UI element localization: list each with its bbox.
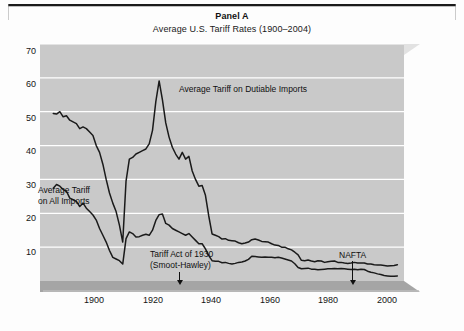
y-tick-30: 30: [4, 181, 36, 190]
x-tick-1900: 1900: [74, 296, 114, 305]
series-lines: [40, 44, 404, 281]
annotation-dutiable-imports: Average Tariff on Dutiable Imports: [179, 84, 307, 95]
y-tick-10: 10: [4, 248, 36, 257]
plot-background: [40, 44, 404, 281]
annotation-tariff-act-line1: Tariff Act of 1930: [150, 249, 213, 260]
x-tick-1980: 1980: [308, 296, 348, 305]
x-tick-2000: 2000: [367, 296, 407, 305]
y-tick-70: 70: [4, 47, 36, 56]
figure-subtitle: Average U.S. Tariff Rates (1900–2004): [0, 24, 464, 34]
y-tick-50: 50: [4, 114, 36, 123]
y-tick-20: 20: [4, 214, 36, 223]
annotation-tariff-act-arrow: [179, 272, 180, 281]
x-tick-1920: 1920: [133, 296, 173, 305]
y-tick-60: 60: [4, 80, 36, 89]
x-tick-1960: 1960: [250, 296, 290, 305]
figure-title: Panel A: [0, 11, 464, 21]
annotation-nafta-arrow: [352, 261, 353, 281]
plot-area: Average Tariff on Dutiable Imports Avera…: [40, 44, 420, 292]
figure-panel-a: Panel A Average U.S. Tariff Rates (1900–…: [0, 0, 464, 331]
y-tick-40: 40: [4, 147, 36, 156]
plot-3d-right-face: [404, 44, 420, 55]
annotation-all-imports-line1: Average Tariff: [38, 185, 90, 196]
annotation-tariff-act-line2: (Smoot-Hawley): [150, 260, 211, 271]
annotation-all-imports-line2: on All Imports: [38, 196, 90, 207]
x-tick-1940: 1940: [191, 296, 231, 305]
annotation-nafta: NAFTA: [339, 250, 366, 261]
page-top-rule-soft: [8, 6, 456, 7]
plot-drop-shadow: [43, 290, 419, 292]
